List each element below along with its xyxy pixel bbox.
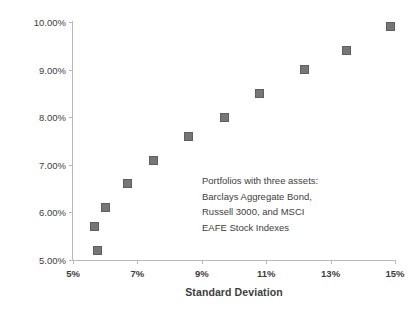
chart-annotation-line: Barclays Aggregate Bond,	[202, 189, 318, 205]
data-point-marker	[300, 65, 309, 74]
data-point-marker	[93, 246, 102, 255]
data-point-marker	[184, 132, 193, 141]
data-point-marker	[342, 46, 351, 55]
y-axis-title: Return per Annum	[0, 0, 26, 310]
x-axis-tick-label: 7%	[131, 268, 145, 279]
data-point-marker	[386, 22, 395, 31]
x-axis-tick-mark	[331, 260, 332, 264]
data-point-marker	[123, 179, 132, 188]
x-axis-title-label: Standard Deviation	[185, 286, 282, 298]
x-axis-tick-mark	[73, 260, 74, 264]
data-point-marker	[90, 222, 99, 231]
x-axis-tick-label: 5%	[66, 268, 80, 279]
y-axis-tick-mark	[69, 22, 73, 23]
x-axis-tick-mark	[266, 260, 267, 264]
x-axis-title: Standard Deviation	[73, 286, 395, 298]
chart-annotation-line: Russell 3000, and MSCI	[202, 204, 318, 220]
chart-annotation-line: Portfolios with three assets:	[202, 173, 318, 189]
x-axis-tick-mark	[395, 260, 396, 264]
x-axis-tick-label: 15%	[385, 268, 404, 279]
x-axis-tick-label: 13%	[321, 268, 340, 279]
y-axis-tick-label: 9.00%	[39, 64, 66, 75]
x-axis-tick-mark	[137, 260, 138, 264]
y-axis-tick-label: 5.00%	[39, 255, 66, 266]
y-axis-tick-label: 7.00%	[39, 159, 66, 170]
y-axis-tick-mark	[69, 212, 73, 213]
x-axis-tick-label: 11%	[257, 268, 276, 279]
data-point-marker	[255, 89, 264, 98]
y-axis-tick-label: 10.00%	[34, 17, 66, 28]
chart-annotation-text: Portfolios with three assets:Barclays Ag…	[202, 173, 318, 235]
x-axis-tick-label: 9%	[195, 268, 209, 279]
data-point-marker	[220, 113, 229, 122]
x-axis-tick-mark	[202, 260, 203, 264]
y-axis-tick-mark	[69, 165, 73, 166]
data-point-marker	[149, 156, 158, 165]
chart-annotation-line: EAFE Stock Indexes	[202, 220, 318, 236]
y-axis-tick-label: 8.00%	[39, 112, 66, 123]
scatter-chart-figure: Return per Annum 5.00%6.00%7.00%8.00%9.0…	[0, 0, 419, 310]
data-point-marker	[101, 203, 110, 212]
y-axis-tick-label: 6.00%	[39, 207, 66, 218]
y-axis-tick-mark	[69, 117, 73, 118]
y-axis-tick-mark	[69, 70, 73, 71]
x-axis-line	[72, 260, 396, 261]
